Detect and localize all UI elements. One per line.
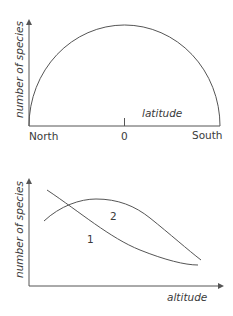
- curve-label-2: 2: [110, 211, 117, 222]
- tick-south: South: [192, 130, 223, 141]
- curve-label-1: 1: [87, 234, 94, 245]
- y-axis-label-2: number of species: [14, 181, 25, 278]
- latitude-curve: [29, 25, 220, 126]
- curve-2: [44, 199, 201, 260]
- altitude-diagram: [29, 181, 221, 286]
- curve-1: [47, 190, 198, 265]
- y-axis-label-1: number of species: [14, 21, 25, 118]
- latitude-diagram: [29, 22, 220, 126]
- diagram-canvas: [0, 0, 233, 316]
- x-axis-label-1: latitude: [142, 108, 182, 119]
- x-axis-label-2: altitude: [167, 292, 207, 303]
- tick-north: North: [29, 131, 58, 142]
- tick-zero: 0: [121, 131, 128, 142]
